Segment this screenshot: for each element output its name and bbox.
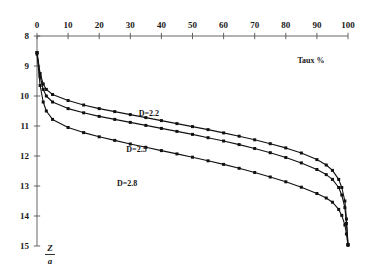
data-point-marker xyxy=(315,158,318,161)
data-point-marker xyxy=(144,124,147,127)
data-point-marker xyxy=(300,161,303,164)
data-point-marker xyxy=(315,192,318,195)
data-point-marker xyxy=(222,163,225,166)
x-tick-labels: 0102030405060708090100 xyxy=(35,20,356,30)
data-point-marker xyxy=(340,194,343,197)
y-tick-label: 12 xyxy=(20,151,30,161)
y-tick-label: 10 xyxy=(20,91,30,101)
data-point-marker xyxy=(337,208,340,211)
x-axis-title: Taux % xyxy=(297,56,324,65)
data-point-marker xyxy=(42,101,45,104)
y-tick-label: 14 xyxy=(20,211,30,221)
series-line xyxy=(37,53,348,245)
data-point-marker xyxy=(129,121,132,124)
x-tick-label: 20 xyxy=(95,20,105,30)
data-point-marker xyxy=(222,140,225,143)
data-point-marker xyxy=(82,111,85,114)
data-point-marker xyxy=(238,167,241,170)
data-point-marker xyxy=(347,244,350,247)
data-point-marker xyxy=(207,128,210,131)
data-point-marker xyxy=(160,127,163,130)
x-tick-label: 70 xyxy=(250,20,260,30)
data-point-marker xyxy=(284,146,287,149)
data-point-marker xyxy=(98,135,101,138)
data-point-marker xyxy=(191,125,194,128)
data-point-marker xyxy=(315,168,318,171)
data-point-marker xyxy=(113,139,116,142)
x-tick-label: 0 xyxy=(35,20,40,30)
data-point-marker xyxy=(175,130,178,133)
data-point-marker xyxy=(113,110,116,113)
data-point-marker xyxy=(175,152,178,155)
data-point-marker xyxy=(67,107,70,110)
data-point-marker xyxy=(51,118,54,121)
data-point-marker xyxy=(45,95,48,98)
x-tick-label: 80 xyxy=(281,20,291,30)
data-point-marker xyxy=(269,142,272,145)
data-point-marker xyxy=(82,104,85,107)
data-point-marker xyxy=(284,180,287,183)
data-point-marker xyxy=(98,107,101,110)
y-axis-title-numerator: Z xyxy=(46,243,53,253)
data-point-marker xyxy=(331,169,334,172)
y-tick-label: 8 xyxy=(25,31,30,41)
data-point-marker xyxy=(325,164,328,167)
data-point-marker xyxy=(67,126,70,129)
series-label-d28: D=2.8 xyxy=(117,179,137,188)
data-point-marker xyxy=(253,147,256,150)
data-point-marker xyxy=(337,178,340,181)
data-point-marker xyxy=(222,131,225,134)
series-line xyxy=(37,53,348,245)
x-tick-label: 10 xyxy=(64,20,74,30)
data-point-marker xyxy=(325,197,328,200)
data-point-marker xyxy=(253,171,256,174)
data-point-marker xyxy=(207,136,210,139)
data-point-marker xyxy=(343,224,346,227)
data-point-marker xyxy=(39,84,42,87)
series-label-d22: D=2.2 xyxy=(139,109,159,118)
data-point-marker xyxy=(337,186,340,189)
y-tick-label: 15 xyxy=(20,241,30,251)
data-point-marker xyxy=(113,118,116,121)
data-point-marker xyxy=(160,149,163,152)
series-line xyxy=(37,54,348,245)
data-point-marker xyxy=(36,53,39,56)
data-point-marker xyxy=(207,159,210,162)
y-tick-label: 13 xyxy=(20,181,30,191)
data-point-marker xyxy=(129,113,132,116)
data-point-marker xyxy=(51,93,54,96)
data-series-group xyxy=(36,51,350,247)
data-point-marker xyxy=(160,119,163,122)
data-point-marker xyxy=(331,201,334,204)
data-point-marker xyxy=(345,233,348,236)
x-tick-label: 50 xyxy=(188,20,198,30)
x-tick-label: 100 xyxy=(341,20,355,30)
data-point-marker xyxy=(300,186,303,189)
chart-figure: 0102030405060708090100 89101112131415 D=… xyxy=(0,0,365,278)
data-point-marker xyxy=(67,99,70,102)
data-point-marker xyxy=(175,122,178,125)
data-point-marker xyxy=(238,143,241,146)
y-axis-title-denominator: a xyxy=(48,256,53,266)
x-tick-label: 30 xyxy=(126,20,136,30)
x-tick-label: 40 xyxy=(157,20,167,30)
y-tick-label: 9 xyxy=(25,61,30,71)
data-point-marker xyxy=(284,156,287,159)
data-point-marker xyxy=(45,110,48,113)
data-series xyxy=(36,51,350,246)
data-point-marker xyxy=(82,131,85,134)
x-axis xyxy=(37,33,348,39)
data-series xyxy=(36,53,350,247)
data-point-marker xyxy=(340,186,343,189)
data-series xyxy=(36,51,350,246)
data-point-marker xyxy=(325,173,328,176)
data-point-marker xyxy=(98,115,101,118)
y-tick-label: 11 xyxy=(20,121,29,131)
data-point-marker xyxy=(42,88,45,91)
axis-titles: Taux % Z a xyxy=(45,56,325,266)
data-point-marker xyxy=(331,178,334,181)
data-point-marker xyxy=(191,133,194,136)
data-point-marker xyxy=(238,135,241,138)
data-point-marker xyxy=(300,152,303,155)
data-point-marker xyxy=(253,138,256,141)
